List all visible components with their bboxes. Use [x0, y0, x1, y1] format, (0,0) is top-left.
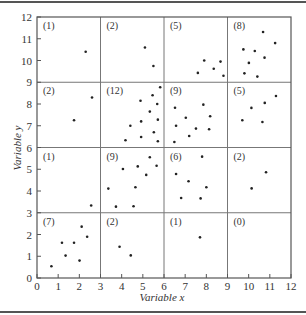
data-point	[153, 131, 156, 134]
data-point	[91, 96, 94, 99]
data-point	[275, 95, 278, 98]
data-point	[195, 127, 198, 130]
cell-count-label: (9)	[107, 151, 119, 163]
x-tick-label: 2	[77, 280, 83, 292]
x-tick-label: 9	[225, 280, 231, 292]
data-point	[174, 106, 177, 109]
cell-count-label: (2)	[234, 151, 246, 163]
x-tick-label: 12	[286, 280, 297, 292]
y-tick-label: 6	[27, 142, 33, 154]
data-point	[151, 94, 154, 97]
plot-area: 01234567891011120123456789101112 (1)(2)(…	[0, 0, 306, 315]
data-point	[199, 236, 202, 239]
data-point	[254, 50, 257, 53]
cell-count-label: (7)	[43, 216, 55, 228]
data-point	[156, 103, 159, 106]
data-point	[262, 31, 265, 34]
data-point	[199, 197, 202, 200]
y-tick-label: 8	[27, 98, 33, 110]
data-point	[241, 119, 244, 122]
data-point	[149, 156, 152, 159]
data-point	[84, 51, 87, 54]
data-point	[107, 187, 110, 190]
y-tick-label: 4	[27, 185, 33, 197]
data-point	[157, 118, 160, 121]
data-point	[265, 171, 268, 174]
x-tick-label: 3	[98, 280, 104, 292]
data-point	[209, 115, 212, 118]
data-point	[263, 102, 266, 105]
y-axis-label: Variable y	[11, 125, 23, 170]
cell-count-label: (1)	[170, 216, 182, 228]
cell-count-label: (9)	[170, 85, 182, 97]
data-point	[61, 241, 64, 244]
data-point	[219, 60, 222, 63]
cell-count-label: (1)	[43, 151, 55, 163]
data-point	[201, 155, 204, 158]
data-point	[140, 120, 143, 123]
cell-count-label: (5)	[234, 85, 246, 97]
cell-count-label: (8)	[234, 20, 246, 32]
y-tick-label: 10	[21, 55, 33, 67]
data-point	[250, 187, 253, 190]
data-point	[248, 62, 251, 65]
y-tick-label: 7	[27, 120, 33, 132]
data-point	[242, 48, 245, 51]
y-tick-label: 1	[27, 250, 33, 262]
data-point	[180, 197, 183, 200]
quadrat-grid	[37, 17, 291, 278]
cell-count-label: (2)	[107, 20, 119, 32]
y-tick-label: 2	[27, 229, 33, 241]
data-point	[140, 136, 143, 139]
data-point	[175, 124, 178, 127]
data-point	[122, 168, 125, 171]
data-point	[205, 186, 208, 189]
data-point	[175, 173, 178, 176]
cell-count-label: (5)	[170, 20, 182, 32]
axes: 01234567891011120123456789101112	[21, 11, 297, 292]
data-point	[188, 135, 191, 138]
y-tick-label: 0	[27, 272, 33, 284]
y-tick-label: 11	[21, 33, 32, 45]
data-point	[250, 107, 253, 110]
data-point	[159, 86, 162, 89]
data-point	[263, 56, 266, 59]
data-point	[115, 205, 118, 208]
data-point	[203, 59, 206, 62]
data-point	[73, 119, 76, 122]
data-point	[261, 121, 264, 124]
data-point	[118, 245, 121, 248]
data-point	[152, 65, 155, 68]
x-tick-label: 10	[243, 280, 255, 292]
x-tick-label: 11	[265, 280, 276, 292]
data-point	[64, 254, 67, 257]
data-point	[212, 67, 215, 70]
data-point	[187, 180, 190, 183]
data-point	[50, 265, 53, 268]
scatter-chart: 01234567891011120123456789101112 (1)(2)(…	[0, 0, 306, 315]
cell-count-label: (2)	[107, 216, 119, 228]
cell-count-label: (2)	[43, 85, 55, 97]
data-point	[208, 128, 211, 131]
data-point	[222, 74, 225, 77]
data-point	[145, 174, 148, 177]
y-tick-label: 5	[27, 163, 33, 175]
data-point	[155, 164, 158, 167]
cell-count-labels: (1)(2)(5)(8)(2)(12)(9)(5)(1)(9)(6)(2)(7)…	[43, 20, 245, 228]
data-point	[136, 165, 139, 168]
data-point	[202, 103, 205, 106]
y-tick-label: 3	[27, 207, 33, 219]
cell-count-label: (1)	[43, 20, 55, 32]
y-tick-label: 9	[27, 76, 33, 88]
y-tick-label: 12	[21, 11, 32, 23]
data-point	[185, 116, 188, 119]
data-point	[129, 124, 132, 127]
data-point	[73, 241, 76, 244]
cell-count-label: (6)	[170, 151, 182, 163]
cell-count-label: (0)	[234, 216, 246, 228]
data-point	[173, 141, 176, 144]
cell-count-label: (12)	[107, 85, 124, 97]
x-tick-label: 0	[34, 280, 40, 292]
data-point	[144, 46, 147, 49]
data-point	[132, 205, 135, 208]
